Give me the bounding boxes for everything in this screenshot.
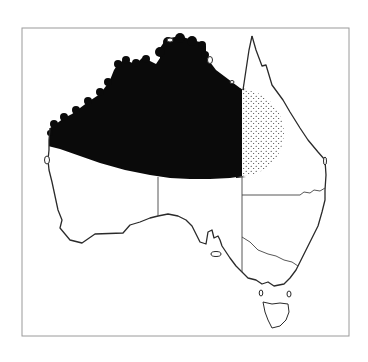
island-groote: [208, 57, 213, 64]
island-melville: [167, 38, 173, 42]
distribution-map: [0, 0, 368, 362]
island-king: [259, 290, 263, 296]
island-kangaroo: [211, 252, 221, 257]
island-flinders: [287, 291, 291, 297]
island-shark-bay: [45, 156, 50, 164]
island-fraser: [324, 157, 327, 165]
island-wellesley: [230, 81, 234, 84]
map-svg: [0, 0, 368, 362]
